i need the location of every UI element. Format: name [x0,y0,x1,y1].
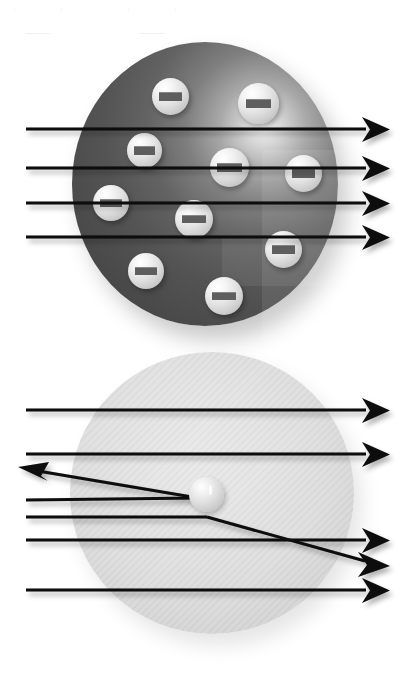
arrowhead-right [362,156,390,181]
arrowhead-right [362,225,390,250]
alpha-ray-backscatter-incoming [26,498,198,500]
arrowhead-right [362,578,390,603]
thomson-ray-group [26,117,390,250]
arrowhead-right [362,442,390,467]
arrowhead-right [362,398,390,423]
arrowhead-right-deflected [358,552,390,577]
alpha-ray-backscatter-outgoing [38,471,198,498]
arrowhead-right [362,528,390,553]
arrowhead-right [362,191,390,216]
arrowhead-right [362,117,390,142]
diagram-canvas [0,0,419,673]
nucleus [189,477,224,512]
ray-layer [0,0,419,673]
nucleus-highlight [209,485,213,496]
